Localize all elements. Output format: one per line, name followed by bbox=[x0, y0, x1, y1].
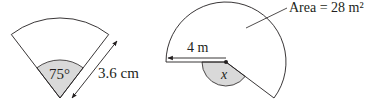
right-angle-label: x bbox=[221, 67, 227, 83]
right-area-label: Area = 28 m² bbox=[289, 0, 364, 16]
diagram-graphics bbox=[0, 0, 368, 110]
right-sector bbox=[166, 2, 287, 98]
left-angle-label: 75° bbox=[49, 66, 70, 83]
diagram-canvas: 75° 3.6 cm 4 m x Area = 28 m² bbox=[0, 0, 368, 110]
left-length-label: 3.6 cm bbox=[98, 65, 139, 82]
right-radius-label: 4 m bbox=[187, 40, 208, 56]
center-dot bbox=[224, 60, 228, 64]
area-leader bbox=[246, 8, 287, 28]
left-sector bbox=[11, 18, 117, 98]
